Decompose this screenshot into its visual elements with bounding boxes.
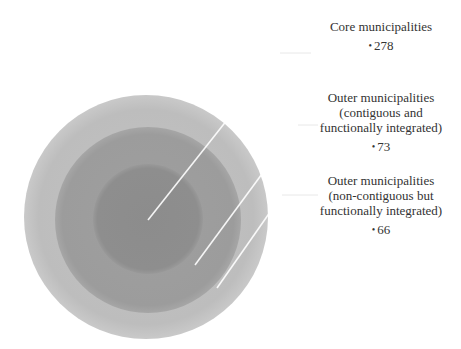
label-value: •278 — [306, 38, 456, 54]
label-title-line: Outer municipalities — [306, 173, 456, 188]
bullet-icon: • — [368, 40, 372, 51]
label-outer-noncontiguous: Outer municipalities (non-contiguous but… — [306, 173, 456, 238]
bullet-icon: • — [372, 141, 376, 152]
label-title-line: Outer municipalities — [306, 90, 456, 105]
bullet-icon: • — [372, 224, 376, 235]
label-title-line: functionally integrated) — [306, 120, 456, 135]
label-title-line: (contiguous and — [306, 105, 456, 120]
label-value: •73 — [306, 139, 456, 155]
label-outer-contiguous: Outer municipalities (contiguous and fun… — [306, 90, 456, 155]
value-text: 278 — [374, 38, 394, 53]
label-core-municipalities: Core municipalities •278 — [306, 19, 456, 54]
label-title-line: Core municipalities — [306, 19, 456, 34]
value-text: 66 — [377, 222, 390, 237]
label-value: •66 — [306, 222, 456, 238]
value-text: 73 — [377, 139, 390, 154]
label-title-line: (non-contiguous but — [306, 188, 456, 203]
label-title-line: functionally integrated) — [306, 203, 456, 218]
